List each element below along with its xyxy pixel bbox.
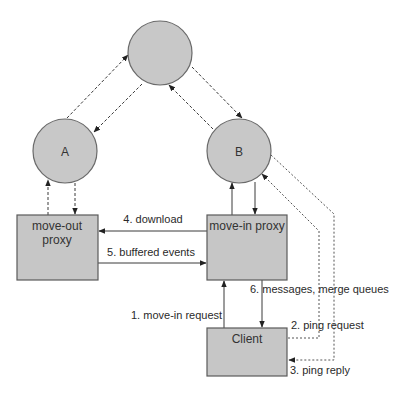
- edge-top-to-a: [94, 84, 142, 132]
- move-in-proxy-label: move-in proxy: [209, 219, 284, 233]
- label-move-in-request: 1. move-in request: [131, 309, 222, 321]
- client-label: Client: [232, 332, 263, 346]
- label-download: 4. download: [123, 213, 182, 225]
- node-top: [128, 21, 192, 85]
- node-a: A: [33, 119, 97, 183]
- move-out-proxy-label-line1: move-out: [32, 219, 83, 233]
- node-b-label: B: [235, 145, 243, 159]
- label-ping-reply: 3. ping reply: [290, 364, 350, 376]
- box-client: Client: [207, 328, 287, 376]
- box-move-in-proxy: move-in proxy: [207, 215, 287, 280]
- edge-a-to-top: [67, 55, 128, 118]
- edge-top-to-b: [192, 67, 242, 118]
- box-move-out-proxy: move-out proxy: [17, 215, 98, 280]
- node-a-label: A: [61, 145, 69, 159]
- label-buffered-events: 5. buffered events: [107, 246, 195, 258]
- label-ping-request: 2. ping request: [291, 319, 364, 331]
- label-messages-merge-queues: 6. messages, merge queues: [250, 283, 389, 295]
- node-b: B: [207, 119, 271, 183]
- move-out-proxy-label-line2: proxy: [42, 233, 71, 247]
- move-in-protocol-diagram: A B move-out proxy move-in proxy Client …: [0, 0, 396, 394]
- edge-b-to-top: [169, 85, 213, 129]
